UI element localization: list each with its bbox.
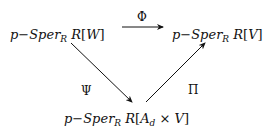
bracket-close: ] (100, 27, 105, 42)
psi-label: Ψ (81, 85, 92, 97)
node-prefix: p−Sper (10, 27, 60, 42)
node-ring: R (125, 111, 135, 126)
node-subscript: R (222, 34, 229, 44)
bracket-close: ] (258, 27, 263, 42)
node-prefix: p−Sper (64, 111, 114, 126)
pi-label: Π (188, 84, 198, 96)
node-ring: R (71, 27, 81, 42)
times-symbol: × (155, 111, 174, 126)
node-variable: W (86, 27, 99, 42)
node-top-right: p−SperR R[V] (172, 28, 263, 44)
bracket-close: ] (184, 111, 189, 126)
node-subscript: R (114, 118, 121, 128)
node-variable: V (248, 27, 257, 42)
node-bottom: p−SperR R[Ad × V] (64, 112, 189, 128)
node-variable-a: A (140, 111, 149, 126)
node-variable-b: V (174, 111, 183, 126)
phi-label: Φ (137, 11, 147, 23)
node-ring: R (233, 27, 243, 42)
node-subscript: R (60, 34, 67, 44)
node-top-left: p−SperR R[W] (10, 28, 105, 44)
node-prefix: p−Sper (172, 27, 222, 42)
